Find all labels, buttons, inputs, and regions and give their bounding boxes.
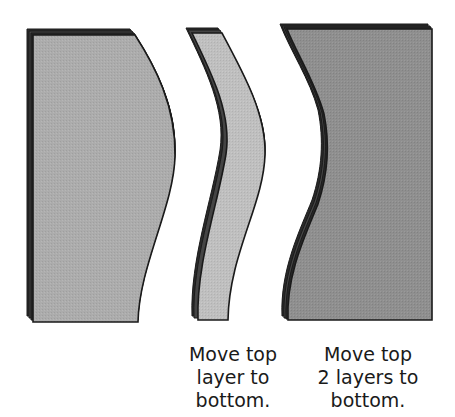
left-panel: [27, 29, 175, 322]
caption-move-top-2-layers: Move top 2 layers to bottom.: [303, 343, 433, 412]
left-panel-top-layer: [33, 35, 175, 322]
right-panel-top-layer: [287, 29, 432, 320]
caption-middle-line-3: bottom.: [178, 389, 288, 412]
caption-middle-line-1: Move top: [178, 343, 288, 366]
middle-panel: [186, 28, 265, 320]
caption-middle-line-2: layer to: [178, 366, 288, 389]
right-panel: [280, 24, 432, 320]
caption-move-top-layer: Move top layer to bottom.: [178, 343, 288, 412]
caption-right-line-3: bottom.: [303, 389, 433, 412]
caption-right-line-2: 2 layers to: [303, 366, 433, 389]
caption-right-line-1: Move top: [303, 343, 433, 366]
middle-panel-top-layer: [192, 33, 265, 320]
